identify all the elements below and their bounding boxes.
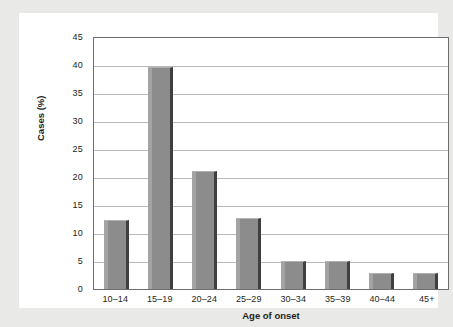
x-tick-label: 25–29 [227,294,271,304]
gridline [94,206,448,207]
gridline [94,94,448,95]
bar-slot [183,38,227,289]
gridline [94,262,448,263]
y-tick-label: 35 [55,88,83,98]
bar [413,273,438,289]
bar-slot [360,38,404,289]
y-tick-label: 20 [55,172,83,182]
bar [281,261,306,289]
gridline [94,150,448,151]
y-axis-title: Cases (%) [35,96,46,141]
gridline [94,66,448,67]
bar [369,273,394,289]
bar-slot [94,38,138,289]
x-tick-label: 15–19 [138,294,182,304]
bar-slot [315,38,359,289]
y-tick-label: 40 [55,60,83,70]
bar-slot [404,38,448,289]
x-tick-label: 45+ [405,294,449,304]
y-tick-label: 45 [55,32,83,42]
chart-card: Cases (%) 45 40 35 30 25 20 15 10 5 0 [19,13,438,308]
x-axis-title: Age of onset [93,310,449,321]
y-tick-label: 5 [55,256,83,266]
y-tick-label: 0 [55,284,83,294]
bar [236,218,261,289]
bar-series [94,38,448,289]
plot-area [93,37,449,290]
y-tick-label: 30 [55,116,83,126]
x-tick-label: 30–34 [271,294,315,304]
gridline [94,234,448,235]
bar [104,220,129,289]
bar [325,261,350,289]
y-tick-label: 25 [55,144,83,154]
bar-slot [271,38,315,289]
x-tick-label: 10–14 [93,294,137,304]
bar-slot [227,38,271,289]
gridline [94,178,448,179]
gridline [94,122,448,123]
bar [192,171,217,289]
bar-slot [138,38,182,289]
y-tick-label: 15 [55,200,83,210]
x-axis-ticks: 10–14 15–19 20–24 25–29 30–34 35–39 40–4… [93,294,449,304]
figure: Cases (%) 45 40 35 30 25 20 15 10 5 0 [0,0,453,327]
x-tick-label: 20–24 [182,294,226,304]
x-tick-label: 40–44 [360,294,404,304]
x-tick-label: 35–39 [316,294,360,304]
y-tick-label: 10 [55,228,83,238]
